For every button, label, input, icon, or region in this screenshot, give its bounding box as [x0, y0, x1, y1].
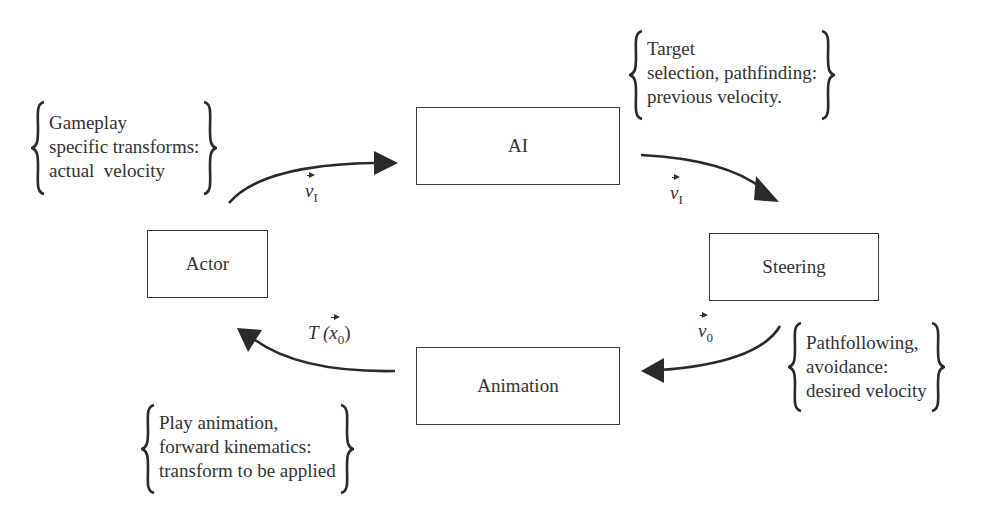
arrow-steering-to-animation [660, 326, 780, 370]
left-brace-icon [141, 403, 155, 495]
note-steering-text: Pathfollowing, avoidance: desired veloci… [802, 321, 931, 413]
node-steering-label: Steering [762, 256, 825, 278]
note-animation-text: Play animation, forward kinematics: tran… [155, 403, 340, 495]
note-animation: Play animation, forward kinematics: tran… [141, 403, 354, 495]
node-actor: Actor [147, 230, 268, 298]
note-actor: Gameplay specific transforms: actual vel… [31, 100, 217, 196]
edge-label-animation-to-actor: T (x0) [308, 322, 351, 348]
arrowhead-icon [237, 328, 262, 352]
note-ai-text: Target selection, pathfinding: previous … [643, 29, 821, 121]
right-brace-icon [931, 321, 945, 413]
edge-label-actor-to-ai: vI [305, 180, 318, 206]
left-brace-icon [629, 29, 643, 121]
left-brace-icon [788, 321, 802, 413]
node-ai: AI [416, 107, 620, 185]
node-animation-label: Animation [477, 375, 558, 397]
right-brace-icon [203, 100, 217, 196]
arrow-ai-to-steering [641, 155, 764, 190]
arrowhead-icon [374, 151, 398, 175]
node-animation: Animation [416, 347, 620, 425]
edge-label-ai-to-steering: vI [670, 182, 683, 208]
right-brace-icon [340, 403, 354, 495]
left-brace-icon [31, 100, 45, 196]
node-steering: Steering [709, 233, 879, 301]
arrow-actor-to-ai [229, 163, 375, 203]
node-ai-label: AI [508, 135, 528, 157]
note-ai: Target selection, pathfinding: previous … [629, 29, 835, 121]
node-actor-label: Actor [186, 253, 229, 275]
arrowhead-icon [754, 176, 779, 202]
arrowhead-icon [641, 358, 664, 383]
edge-label-steering-to-animation: v0 [698, 320, 713, 346]
note-actor-text: Gameplay specific transforms: actual vel… [45, 100, 203, 196]
note-steering: Pathfollowing, avoidance: desired veloci… [788, 321, 945, 413]
right-brace-icon [821, 29, 835, 121]
